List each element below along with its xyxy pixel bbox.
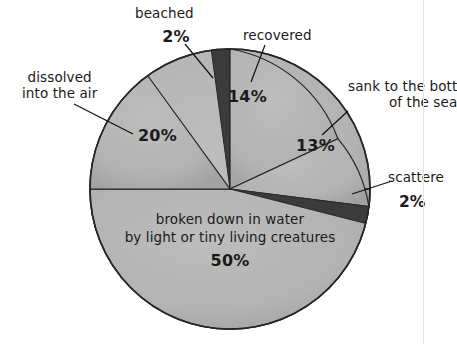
label-broken-down-in-water: broken down in water by light or tiny li…	[96, 211, 364, 246]
label-scattered: scattere	[388, 170, 444, 186]
value-broken-down-in-water: 50%	[132, 252, 328, 271]
label-broken-line2: by light or tiny living creatures	[125, 229, 336, 245]
label-sank-line1: sank to the bott	[348, 78, 457, 94]
value-dissolved-into-air: 20%	[138, 127, 177, 146]
value-scattered: 2%	[399, 193, 425, 211]
label-dissolved-into-air: dissolved into the air	[22, 70, 97, 102]
value-recovered: 14%	[228, 88, 267, 107]
value-beached: 2%	[150, 28, 202, 47]
label-dissolved-line2: into the air	[22, 85, 97, 101]
label-sank-to-bottom: sank to the bott of the sea	[348, 79, 457, 111]
label-recovered: recovered	[243, 28, 312, 44]
label-dissolved-line1: dissolved	[28, 69, 92, 85]
label-broken-line1: broken down in water	[156, 211, 304, 227]
label-beached: beached	[135, 6, 194, 22]
value-sank-to-bottom: 13%	[296, 137, 335, 156]
page-edge-rule	[423, 0, 424, 344]
